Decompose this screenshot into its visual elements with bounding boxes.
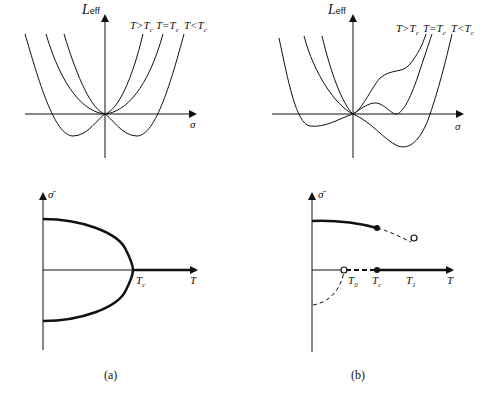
- panel-b-potential-plot: [272, 16, 462, 158]
- panel-b-x-axis-label: σ: [455, 120, 460, 132]
- panel-a-curve-label-below: T<Tc: [184, 19, 207, 34]
- panel-b-curve-label-above: T>Tc: [396, 22, 419, 37]
- point-Tc-filled-branch: [374, 225, 380, 231]
- point-T0-open: [341, 267, 347, 273]
- panel-a-potential-plot: [25, 16, 195, 158]
- curve-a-T-above-Tc: [64, 34, 143, 114]
- curve-b-T-equal-Tc: [304, 34, 432, 114]
- panel-b-curve-label-equal: T=Tc: [423, 22, 446, 37]
- sigma-bar-stable-branch-b: [312, 221, 377, 228]
- panel-a-order-parameter-plot: [43, 194, 196, 350]
- panel-b-caption: (b): [351, 368, 365, 383]
- panel-a-curve-label-above: T>Tc: [130, 19, 153, 34]
- panel-a-caption: (a): [104, 368, 117, 383]
- panel-a-Tc-tick-label: Tc: [136, 274, 145, 289]
- sigma-bar-metastable-upper-b: [377, 228, 411, 242]
- panel-b-sigma-bar-label: σ̄: [318, 188, 323, 200]
- panel-b-Tc-tick-label: Tc: [372, 274, 381, 289]
- panel-a-curve-label-equal: T=Tc: [156, 19, 179, 34]
- panel-b-T1-tick-label: T1: [406, 274, 416, 289]
- panel-b-y-axis-label: Leff: [328, 2, 346, 18]
- panel-b-order-parameter-plot: [312, 194, 452, 352]
- panel-b-T-axis-label: T: [447, 274, 453, 286]
- panel-a-T-axis-label: T: [190, 274, 196, 286]
- point-T1-open: [411, 235, 417, 241]
- panel-b-T0-tick-label: T0: [348, 274, 358, 289]
- point-Tc-filled-axis: [374, 267, 380, 273]
- panel-b-curve-label-below: T<Tc: [451, 22, 474, 37]
- panel-a-y-axis-label: Leff: [82, 2, 100, 18]
- sigma-bar-unstable-lower-b: [313, 272, 344, 305]
- figure-canvas: [0, 0, 485, 395]
- panel-a-sigma-bar-label: σ̄: [48, 188, 53, 200]
- panel-a-x-axis-label: σ: [190, 118, 195, 130]
